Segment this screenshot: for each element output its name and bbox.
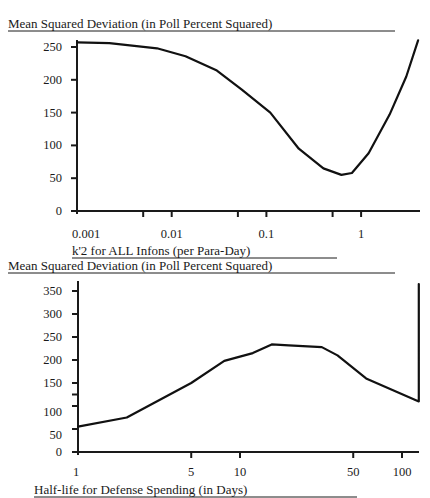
y-tick-label: 0 bbox=[56, 445, 62, 459]
chart-1: Mean Squared Deviation (in Poll Percent … bbox=[8, 16, 420, 258]
chart-1-x-label: k'2 for ALL Infons (per Para-Day) bbox=[72, 243, 250, 258]
y-tick-label: 350 bbox=[43, 284, 62, 298]
y-tick-label: 300 bbox=[43, 307, 62, 321]
chart-2-y-axis: 050100150200250300350 bbox=[43, 281, 78, 459]
y-tick-label: 250 bbox=[43, 330, 62, 344]
chart-2-line-series bbox=[78, 284, 419, 427]
x-tick-label: 0.1 bbox=[259, 227, 275, 241]
chart-1-x-axis: 0.0010.010.11 bbox=[72, 211, 420, 241]
chart-canvas: Mean Squared Deviation (in Poll Percent … bbox=[0, 0, 430, 498]
x-tick-label: 0.001 bbox=[72, 227, 100, 241]
chart-2-x-label: Half-life for Defense Spending (in Days) bbox=[34, 482, 247, 497]
chart-1-title: Mean Squared Deviation (in Poll Percent … bbox=[8, 16, 272, 31]
y-tick-label: 100 bbox=[43, 405, 62, 419]
x-tick-label: 1 bbox=[73, 465, 79, 479]
x-tick-label: 10 bbox=[234, 465, 247, 479]
y-tick-label: 50 bbox=[50, 428, 63, 442]
chart-2-x-axis: 151050100 bbox=[73, 452, 419, 479]
x-tick-label: 1 bbox=[358, 227, 364, 241]
x-tick-label: 50 bbox=[347, 465, 360, 479]
chart-2-title: Mean Squared Deviation (in Poll Percent … bbox=[8, 258, 272, 273]
chart-2: Mean Squared Deviation (in Poll Percent … bbox=[8, 258, 419, 497]
y-tick-label: 150 bbox=[43, 106, 62, 120]
chart-1-y-axis: 050100150200250 bbox=[43, 40, 77, 218]
y-tick-label: 0 bbox=[56, 204, 62, 218]
x-tick-label: 5 bbox=[188, 465, 194, 479]
y-tick-label: 100 bbox=[43, 138, 62, 152]
y-tick-label: 150 bbox=[43, 376, 62, 390]
x-tick-label: 100 bbox=[393, 465, 412, 479]
x-tick-label: 0.01 bbox=[161, 227, 183, 241]
y-tick-label: 250 bbox=[43, 40, 62, 54]
y-tick-label: 200 bbox=[43, 353, 62, 367]
y-tick-label: 50 bbox=[50, 171, 63, 185]
chart-1-line-series bbox=[77, 40, 418, 175]
y-tick-label: 200 bbox=[43, 73, 62, 87]
